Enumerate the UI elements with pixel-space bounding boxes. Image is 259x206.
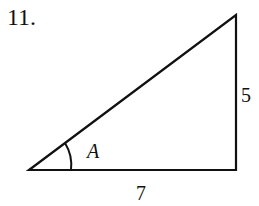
angle-arc — [65, 143, 71, 170]
triangle — [29, 15, 236, 170]
side-label-vertical: 5 — [241, 85, 251, 105]
side-label-horizontal: 7 — [136, 183, 146, 203]
angle-label: A — [87, 141, 99, 161]
right-triangle-diagram — [0, 0, 259, 206]
